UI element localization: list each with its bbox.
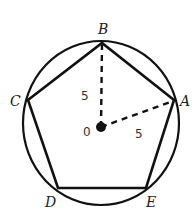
vertex-label-c: C (10, 93, 21, 109)
vertex-label-b: B (97, 21, 108, 37)
center-point (96, 122, 106, 132)
vertex-label-e: E (145, 194, 156, 210)
radius-ob (101, 45, 102, 127)
vertex-label-d: D (44, 194, 56, 210)
pentagon-diagram: B A C D E 0 5 5 (0, 0, 196, 210)
center-label: 0 (83, 125, 91, 139)
vertex-label-a: A (178, 93, 190, 109)
radius-oa (101, 101, 173, 127)
radius-label-ob: 5 (81, 89, 89, 103)
radius-label-oa: 5 (135, 127, 143, 141)
